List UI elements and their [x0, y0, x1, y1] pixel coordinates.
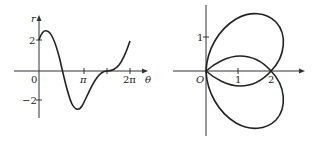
tick-label-neg2: −2	[22, 95, 37, 106]
theta-axis-arrow-icon	[142, 69, 148, 74]
x-axis-arrow-icon	[299, 69, 305, 74]
left-cartesian-plot: r 2 −2 0 π 2π θ	[14, 13, 151, 118]
tick-label-0: 0	[31, 74, 37, 85]
tick-label-2: 2	[29, 35, 35, 46]
theta-axis-label: θ	[145, 74, 151, 85]
tick-label-pi: π	[79, 74, 87, 85]
tick-label-y1: 1	[197, 32, 203, 43]
r-axis-label: r	[31, 13, 37, 24]
tick-label-2pi: 2π	[123, 74, 136, 85]
tick-label-x2: 2	[268, 74, 274, 85]
right-polar-plot: O 1 2 1	[173, 5, 305, 136]
figure: r 2 −2 0 π 2π θ O 1 2 1	[0, 0, 316, 141]
tick-label-x1: 1	[235, 74, 241, 85]
origin-label: O	[196, 74, 204, 85]
r-axis-arrow-icon	[37, 15, 42, 21]
